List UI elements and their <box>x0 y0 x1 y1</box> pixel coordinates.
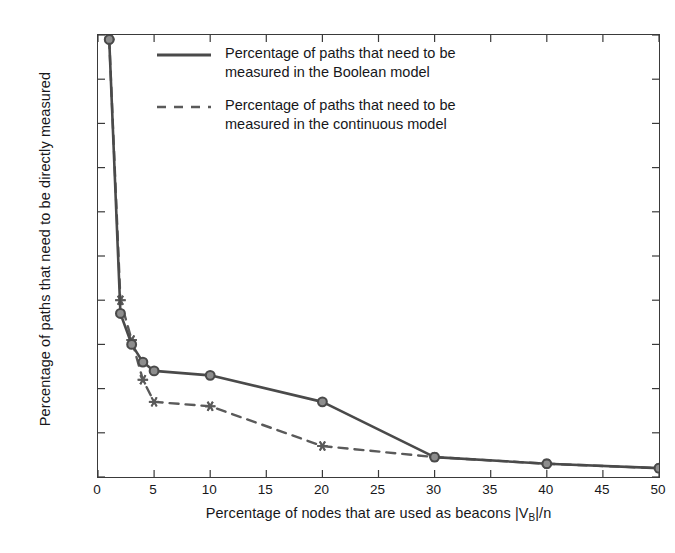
x-axis-v-symbol: V <box>519 505 529 521</box>
data-point-marker-circle <box>655 464 659 473</box>
data-point-marker-star <box>317 442 327 451</box>
x-tick-label-50: 50 <box>638 482 675 497</box>
x-axis-title: Percentage of nodes that are used as bea… <box>97 505 660 521</box>
data-point-marker-star <box>205 402 215 411</box>
x-tick-label-20: 20 <box>301 482 341 497</box>
x-tick-label-10: 10 <box>189 482 229 497</box>
x-tick-label-40: 40 <box>526 482 566 497</box>
data-point-marker-star <box>149 397 159 406</box>
x-axis-b-subscript: B <box>528 512 535 523</box>
legend-label-boolean: Percentage of paths that need to bemeasu… <box>225 44 456 82</box>
chart-figure: Percentage of paths that need to be dire… <box>0 0 675 553</box>
data-point-marker-circle <box>127 340 136 349</box>
data-point-marker-circle <box>105 35 114 44</box>
x-tick-label-5: 5 <box>133 482 173 497</box>
data-point-marker-circle <box>318 397 327 406</box>
legend-label-line2-boolean: measured in the Boolean model <box>225 63 456 82</box>
legend-label-line1-boolean: Percentage of paths that need to be <box>225 44 456 63</box>
chart-legend: Percentage of paths that need to bemeasu… <box>155 44 555 148</box>
x-tick-label-0: 0 <box>77 482 117 497</box>
legend-line-sample-continuous <box>155 96 213 130</box>
data-point-marker-circle <box>150 367 159 376</box>
x-tick-label-45: 45 <box>582 482 622 497</box>
x-tick-label-15: 15 <box>245 482 285 497</box>
legend-entry-boolean: Percentage of paths that need to bemeasu… <box>155 44 555 82</box>
legend-label-line2-continuous: measured in the continuous model <box>225 115 456 134</box>
x-tick-label-25: 25 <box>358 482 398 497</box>
x-axis-title-suffix: /n <box>539 505 551 521</box>
x-axis-title-prefix: Percentage of nodes that are used as bea… <box>206 505 515 521</box>
legend-line-sample-boolean <box>155 44 213 78</box>
x-tick-label-35: 35 <box>470 482 510 497</box>
y-axis-title: Percentage of paths that need to be dire… <box>37 14 53 484</box>
legend-label-continuous: Percentage of paths that need to bemeasu… <box>225 96 456 134</box>
legend-entry-continuous: Percentage of paths that need to bemeasu… <box>155 96 555 134</box>
data-point-marker-circle <box>138 358 147 367</box>
legend-label-line1-continuous: Percentage of paths that need to be <box>225 96 456 115</box>
data-point-marker-circle <box>116 309 125 318</box>
x-tick-label-30: 30 <box>414 482 454 497</box>
data-point-marker-circle <box>206 371 215 380</box>
data-point-marker-circle <box>542 459 551 468</box>
data-point-marker-circle <box>430 453 439 462</box>
